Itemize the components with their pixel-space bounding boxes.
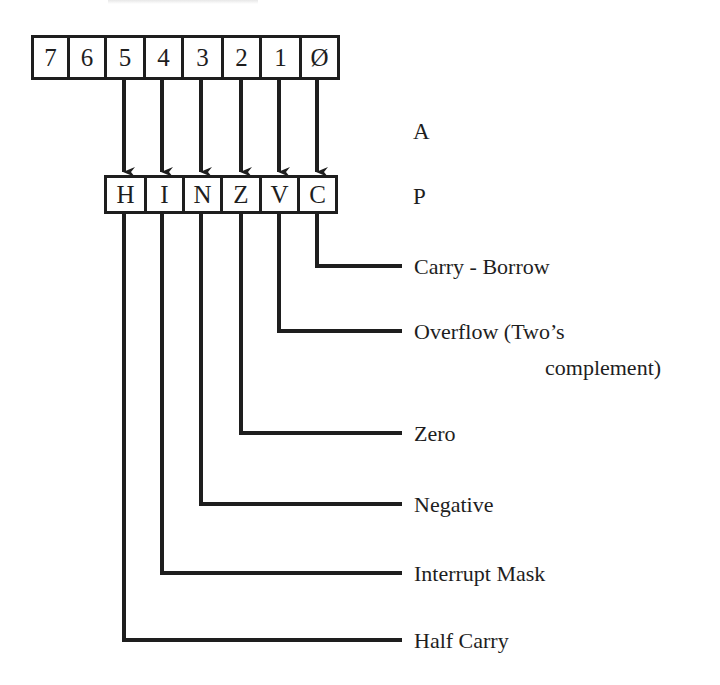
leader-n [201, 214, 402, 504]
register-a: 7 6 5 4 3 2 1 Ø [31, 35, 340, 80]
register-a-bit-3: 3 [184, 38, 224, 77]
flag-cell-i: I [147, 178, 185, 211]
flag-label-overflow-continued: complement) [545, 357, 661, 379]
flag-label-negative: Negative [414, 494, 493, 516]
leader-i [162, 214, 402, 573]
register-a-bit-2: 2 [224, 38, 262, 77]
flag-label-interrupt-mask: Interrupt Mask [414, 563, 545, 585]
register-p: H I N Z V C [104, 175, 338, 214]
register-p-label: P [413, 185, 426, 208]
register-a-bit-6: 6 [70, 38, 107, 77]
flag-cell-n: N [185, 178, 223, 211]
register-a-bit-0: Ø [302, 38, 337, 77]
flag-cell-z: Z [223, 178, 262, 211]
flag-cell-c: C [300, 178, 335, 211]
flag-cell-v: V [262, 178, 300, 211]
register-a-bit-5: 5 [107, 38, 146, 77]
flag-label-zero: Zero [414, 423, 456, 445]
flag-label-carry-borrow: Carry - Borrow [414, 256, 550, 278]
register-a-bit-1: 1 [262, 38, 302, 77]
leader-c [317, 214, 402, 266]
register-a-label: A [413, 120, 430, 143]
register-a-bit-7: 7 [34, 38, 70, 77]
connector-wires [0, 0, 720, 685]
clipped-heading-fragment [108, 0, 258, 4]
register-a-bit-4: 4 [146, 38, 184, 77]
flag-label-overflow: Overflow (Two’s [414, 321, 565, 343]
leader-v [279, 214, 402, 331]
leader-h [124, 214, 402, 640]
flag-label-half-carry: Half Carry [414, 630, 509, 652]
leader-z [241, 214, 402, 433]
flag-cell-h: H [107, 178, 147, 211]
